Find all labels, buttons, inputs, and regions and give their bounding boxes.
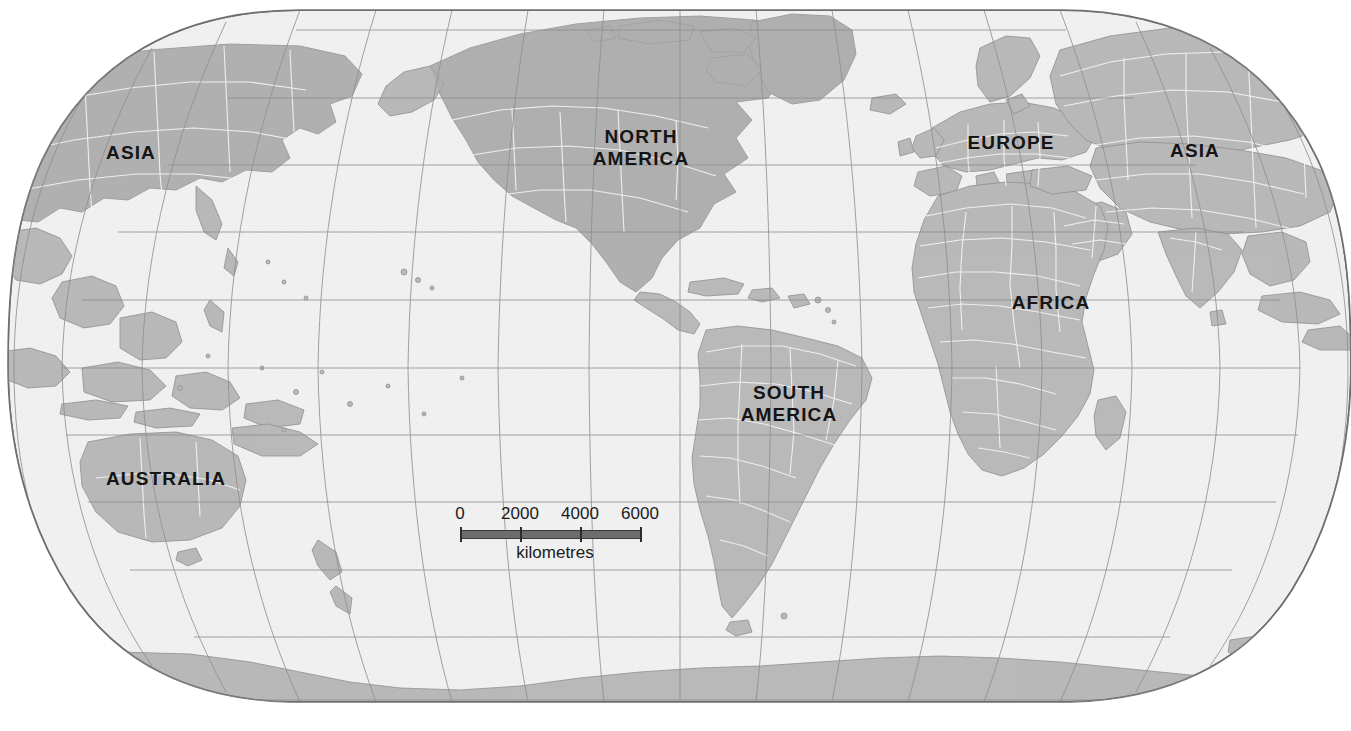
scale-bar-rule	[460, 530, 641, 539]
scale-tick-labels: 0 2000 4000 6000	[449, 504, 679, 526]
scale-tick-label-2000: 2000	[501, 504, 539, 524]
world-map-canvas	[0, 0, 1351, 731]
scale-tick-label-4000: 4000	[561, 504, 599, 524]
scale-tick-mark-4000	[580, 527, 582, 542]
scale-unit-caption: kilometres	[449, 543, 661, 563]
world-map: ASIA NORTH AMERICA EUROPE ASIA AFRICA SO…	[0, 0, 1351, 731]
scale-tick-label-0: 0	[455, 504, 464, 524]
scale-tick-mark-0	[460, 527, 462, 542]
scale-tick-label-6000: 6000	[621, 504, 659, 524]
scale-tick-mark-6000	[640, 527, 642, 542]
scale-bar: 0 2000 4000 6000 kilometres	[449, 504, 679, 566]
scale-tick-mark-2000	[520, 527, 522, 542]
